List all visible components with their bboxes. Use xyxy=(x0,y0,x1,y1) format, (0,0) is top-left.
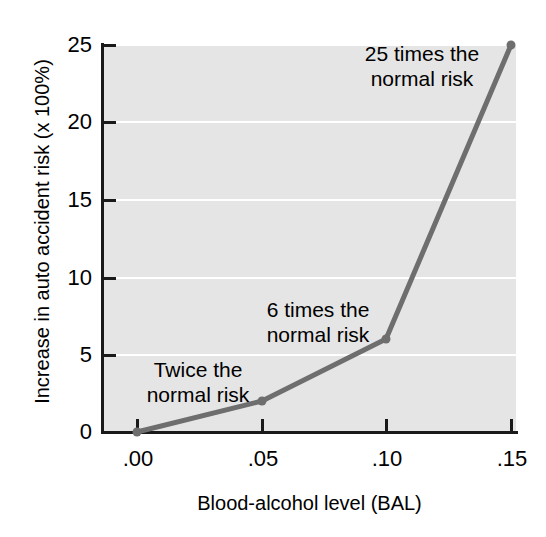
annotation-25-times-the-normal-risk: 25 times the normal risk xyxy=(346,42,498,92)
chart-figure: 25 20 15 10 5 0 .00 .05 .10 .15 Twice th… xyxy=(0,0,546,537)
annotation-6-times-the-normal-risk: 6 times the normal risk xyxy=(252,298,384,348)
annotation-twice-the-normal-risk: Twice the normal risk xyxy=(134,358,262,408)
y-axis-title: Increase in auto accident risk (x 100%) xyxy=(31,32,54,432)
x-axis-title: Blood-alcohol level (BAL) xyxy=(103,492,516,515)
data-point-0 xyxy=(133,428,142,437)
data-point-3 xyxy=(507,41,516,50)
